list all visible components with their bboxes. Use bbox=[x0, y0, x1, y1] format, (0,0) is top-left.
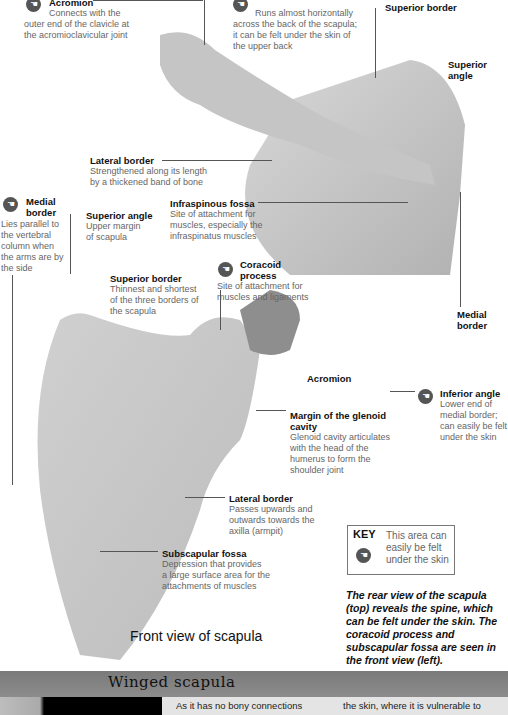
key-text: This area can easily be felt under the s… bbox=[386, 530, 449, 566]
leader-line bbox=[70, 214, 71, 274]
leader-line bbox=[390, 391, 415, 392]
leader-line bbox=[460, 192, 461, 307]
leader-line bbox=[93, 0, 203, 1]
key-legend: KEY ☚ This area can easily be felt under… bbox=[347, 525, 455, 575]
figure-caption: The rear view of the scapula (top) revea… bbox=[346, 589, 506, 667]
label-superior-border-rear: Superior border bbox=[385, 2, 457, 13]
label-infraspinous-fossa: Infraspinous fossa Site of attachment fo… bbox=[170, 198, 263, 242]
label-coracoid-process: Coracoid process Site of attachment for … bbox=[217, 259, 309, 303]
desc-acromion-rear: Connects with the outer end of the clavi… bbox=[24, 8, 164, 41]
leader-line bbox=[12, 275, 13, 485]
label-inferior-angle: Inferior angle Lower end of medial borde… bbox=[440, 388, 507, 443]
hand-palpation-icon: ☚ bbox=[356, 548, 371, 563]
label-superior-border-front: Superior border Thinnest and shortest of… bbox=[110, 273, 199, 317]
leader-line bbox=[258, 202, 408, 203]
leader-line bbox=[162, 160, 272, 161]
label-medial-border-rear: Medial border bbox=[457, 309, 487, 331]
leader-line bbox=[256, 410, 286, 411]
leader-line bbox=[375, 8, 376, 78]
section-title: Winged scapula bbox=[108, 673, 236, 691]
label-superior-angle-rear: Superior angle bbox=[448, 59, 487, 81]
desc-spine: Runs almost horizontally across the back… bbox=[233, 8, 373, 52]
label-subscapular-fossa: Subscapular fossa Depression that provid… bbox=[162, 548, 270, 592]
label-superior-angle-front: Superior angle Upper margin of scapula bbox=[86, 210, 153, 243]
label-acromion-rear: Acromion bbox=[49, 0, 93, 8]
hand-palpation-icon: ☚ bbox=[3, 197, 18, 212]
label-medial-border-front: Medial border bbox=[26, 196, 56, 218]
winged-scapula-banner: Winged scapula bbox=[0, 671, 508, 697]
label-lateral-border-front: Lateral border Passes upwards and outwar… bbox=[229, 493, 315, 537]
key-label: KEY bbox=[353, 529, 376, 540]
label-glenoid-margin: Margin of the glenoid cavity Glenoid cav… bbox=[290, 410, 390, 476]
desc-medial-border-front: Lies parallel to the vertebral column wh… bbox=[1, 219, 64, 274]
leader-line bbox=[220, 290, 221, 330]
winged-scapula-photo bbox=[0, 697, 162, 715]
winged-text-col2: the skin, where it is vulnerable to bbox=[343, 700, 481, 711]
leader-line bbox=[100, 551, 158, 552]
front-scapula-illustration bbox=[10, 270, 300, 660]
leader-line bbox=[185, 497, 225, 498]
leader-line bbox=[204, 0, 205, 45]
front-view-title: Front view of scapula bbox=[130, 628, 262, 644]
winged-text-col1: As it has no bony connections bbox=[176, 700, 302, 711]
hand-palpation-icon: ☚ bbox=[418, 389, 433, 404]
label-acromion-front: Acromion bbox=[307, 373, 351, 384]
